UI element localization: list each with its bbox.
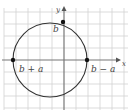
- point-left: [11, 58, 15, 62]
- x-axis-arrow-icon: [116, 58, 121, 63]
- label-left: b + a: [19, 64, 43, 74]
- axes: [2, 8, 118, 110]
- point-right: [85, 58, 89, 62]
- point-top: [61, 20, 65, 24]
- diagram: x y b b + a b − a: [0, 0, 131, 111]
- y-axis-arrow-icon: [62, 6, 67, 11]
- label-right: b − a: [91, 64, 115, 74]
- grid: [4, 8, 128, 110]
- x-axis-label: x: [122, 60, 126, 68]
- label-top: b: [53, 24, 59, 34]
- y-axis-label: y: [55, 6, 61, 14]
